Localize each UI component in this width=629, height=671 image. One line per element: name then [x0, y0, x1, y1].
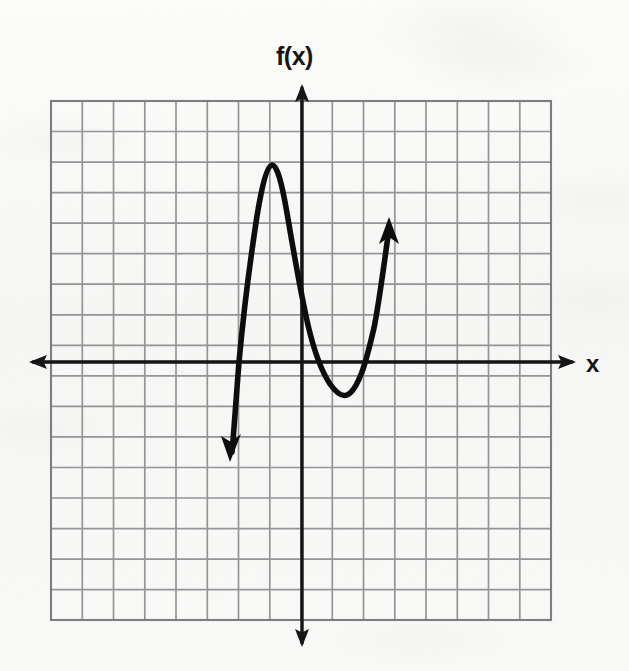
graph-canvas	[0, 0, 629, 671]
axes	[29, 84, 576, 647]
curve-path	[232, 165, 388, 452]
y-axis	[295, 84, 309, 647]
x-axis-label: x	[586, 350, 599, 378]
worksheet-page: f(x) x	[0, 0, 629, 671]
function-curve	[221, 165, 399, 462]
y-axis-label: f(x)	[276, 42, 313, 71]
